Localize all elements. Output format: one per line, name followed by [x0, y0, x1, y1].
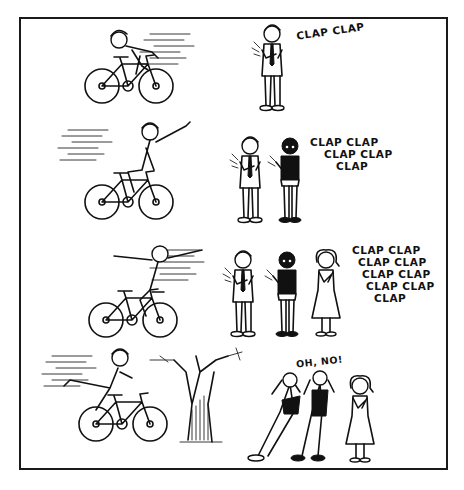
- audience-row-3: [223, 250, 340, 337]
- speech-clap-row-3: CLAP CLAP CLAP CLAP CLAP CLAP CLAP CLAP …: [352, 244, 435, 304]
- tree: [150, 348, 242, 442]
- audience-row-2: [230, 137, 301, 223]
- audience-row-1: [252, 25, 284, 111]
- rider-row-1: [85, 30, 194, 103]
- speech-clap-row-2: CLAP CLAP CLAP CLAP CLAP: [310, 136, 393, 172]
- rider-row-2: [58, 122, 190, 219]
- rider-row-4-crash: [42, 349, 167, 441]
- audience-row-4-horrified: [248, 371, 374, 462]
- rider-row-3: [89, 246, 204, 337]
